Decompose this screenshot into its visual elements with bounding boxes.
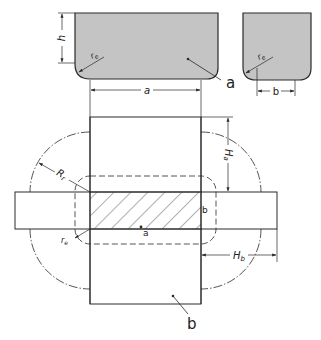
profile-b-shape [243,13,311,80]
hatched-intersection [90,192,201,229]
dim-h-label: h [56,35,67,41]
outer-arc-bottom-left [30,229,90,289]
dim-a-label: a [144,85,150,96]
main-view: Rr re Ha Hb a b b [15,117,277,333]
leader-b-label: b [187,315,197,333]
center-a-dot [140,226,143,229]
leader-a-label: a [226,74,235,92]
dim-re-line-main [75,229,90,238]
center-a-label: a [143,228,149,238]
diagram-canvas: h re a a re b [0,0,321,340]
side-b-label: b [202,205,208,215]
profile-a-shape [75,13,218,79]
profile-a-section: h re a a [55,13,235,117]
dim-re-label-main: re [61,236,68,246]
dim-b-label: b [273,86,279,97]
profile-b-section: re b [243,13,311,97]
outer-arc-top-left [30,132,90,192]
